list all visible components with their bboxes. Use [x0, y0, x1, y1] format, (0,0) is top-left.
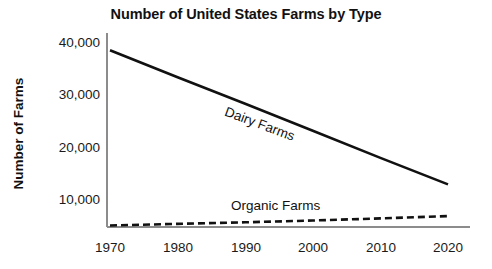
organic-farms-line [110, 216, 448, 225]
farms-by-type-chart: Number of United States Farms by Type Nu… [0, 0, 492, 269]
organic-farms-label: Organic Farms [231, 198, 320, 213]
dairy-farms-line [110, 50, 448, 184]
plot-area [0, 0, 492, 269]
